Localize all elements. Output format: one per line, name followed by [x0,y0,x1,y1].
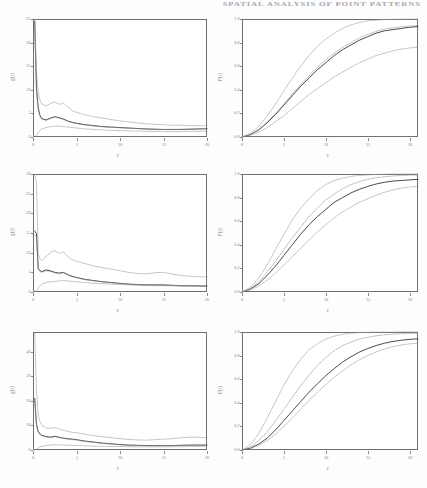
x-tick-label: 10 [114,142,125,147]
plot-curves [33,19,207,137]
paper-page: SPATIAL ANALYSIS OF POINT PATTERNS 05101… [0,0,427,488]
y-tick-label: 10 [20,87,30,92]
y-tick-label: 20 [20,40,30,45]
y-tick-mark [240,379,243,380]
curve-observed [242,339,418,450]
y-tick-mark [240,66,243,67]
curve-theoretical [242,333,418,450]
y-tick-mark [240,19,243,20]
y-tick-mark [31,213,34,214]
x-tick-label: 15 [158,297,169,302]
x-tick-label: 0 [236,142,247,147]
y-tick-mark [240,356,243,357]
x-tick-mark [284,451,285,454]
y-axis-label: g(r) [9,386,15,394]
y-tick-label: 30 [20,373,30,378]
figure-panel-2-left: 051015202530 05101520 r g(r) [0,167,213,322]
figure-panel-3-left: 010203040 05101520 r g(r) [0,322,213,482]
x-tick-mark [33,451,34,454]
x-tick-mark [207,138,208,141]
y-axis-label: F(r) [217,228,223,236]
curve-envelope-upper [242,19,418,137]
curve-observed [35,398,207,445]
y-tick-label: 10 [20,250,30,255]
y-tick-mark [240,113,243,114]
y-axis-label: F(r) [217,73,223,81]
x-tick-label: 20 [404,142,415,147]
x-tick-mark [120,138,121,141]
x-tick-mark [120,293,121,296]
x-tick-mark [207,451,208,454]
x-axis-label: r [117,465,119,471]
x-tick-mark [368,138,369,141]
x-tick-label: 10 [320,455,331,460]
curve-envelope-upper [242,332,418,450]
x-tick-label: 20 [404,455,415,460]
y-tick-label: 0.4 [229,87,239,92]
x-tick-label: 0 [27,455,38,460]
y-tick-label: 0.0 [229,134,239,139]
x-tick-label: 5 [71,297,82,302]
x-tick-label: 20 [201,142,212,147]
y-tick-label: 0.4 [229,400,239,405]
y-axis-label: g(r) [9,73,15,81]
y-tick-mark [31,401,34,402]
x-tick-label: 10 [320,142,331,147]
plot-area: 051015202530 05101520 r g(r) [0,167,213,322]
x-tick-mark [326,451,327,454]
y-tick-label: 0.2 [229,424,239,429]
x-tick-label: 0 [27,142,38,147]
curve-envelope-upper [35,176,207,277]
y-tick-label: 0.0 [229,447,239,452]
x-tick-label: 10 [320,297,331,302]
y-tick-label: 0.2 [229,111,239,116]
y-tick-mark [31,194,34,195]
y-tick-mark [31,174,34,175]
x-tick-mark [242,293,243,296]
y-tick-mark [31,425,34,426]
x-axis-label: r [117,152,119,158]
curve-observed [242,179,418,292]
curve-observed [35,231,207,286]
y-tick-mark [31,253,34,254]
y-tick-mark [240,43,243,44]
y-tick-label: 10 [20,423,30,428]
y-tick-label: 20 [20,211,30,216]
x-tick-label: 10 [114,297,125,302]
y-tick-mark [31,272,34,273]
x-tick-mark [410,293,411,296]
x-tick-mark [410,138,411,141]
y-tick-label: 0 [20,289,30,294]
x-tick-label: 20 [404,297,415,302]
curve-observed [242,27,418,137]
y-axis-label: F(r) [217,386,223,394]
y-tick-label: 0.8 [229,40,239,45]
curve-theoretical [242,25,418,137]
x-tick-mark [368,293,369,296]
y-tick-mark [31,43,34,44]
y-tick-mark [240,426,243,427]
y-tick-label: 0.6 [229,376,239,381]
x-tick-mark [410,451,411,454]
figure-panel-1-left: 0510152025 05101520 r g(r) [0,12,213,167]
x-tick-mark [242,138,243,141]
x-tick-label: 5 [278,142,289,147]
x-tick-mark [77,138,78,141]
x-axis-label: r [327,307,329,313]
x-tick-mark [242,451,243,454]
curve-envelope-lower [242,47,418,137]
x-axis-label: r [117,307,119,313]
x-tick-mark [164,451,165,454]
curve-envelope-upper [35,333,207,440]
y-tick-mark [31,233,34,234]
y-tick-label: 1.0 [229,171,239,176]
y-tick-label: 0.6 [229,218,239,223]
x-axis-label: r [327,152,329,158]
x-tick-mark [284,293,285,296]
x-tick-label: 15 [362,297,373,302]
y-tick-label: 25 [20,191,30,196]
x-tick-mark [77,451,78,454]
plot-curves [33,174,207,292]
y-tick-mark [31,90,34,91]
plot-curves [242,19,418,137]
